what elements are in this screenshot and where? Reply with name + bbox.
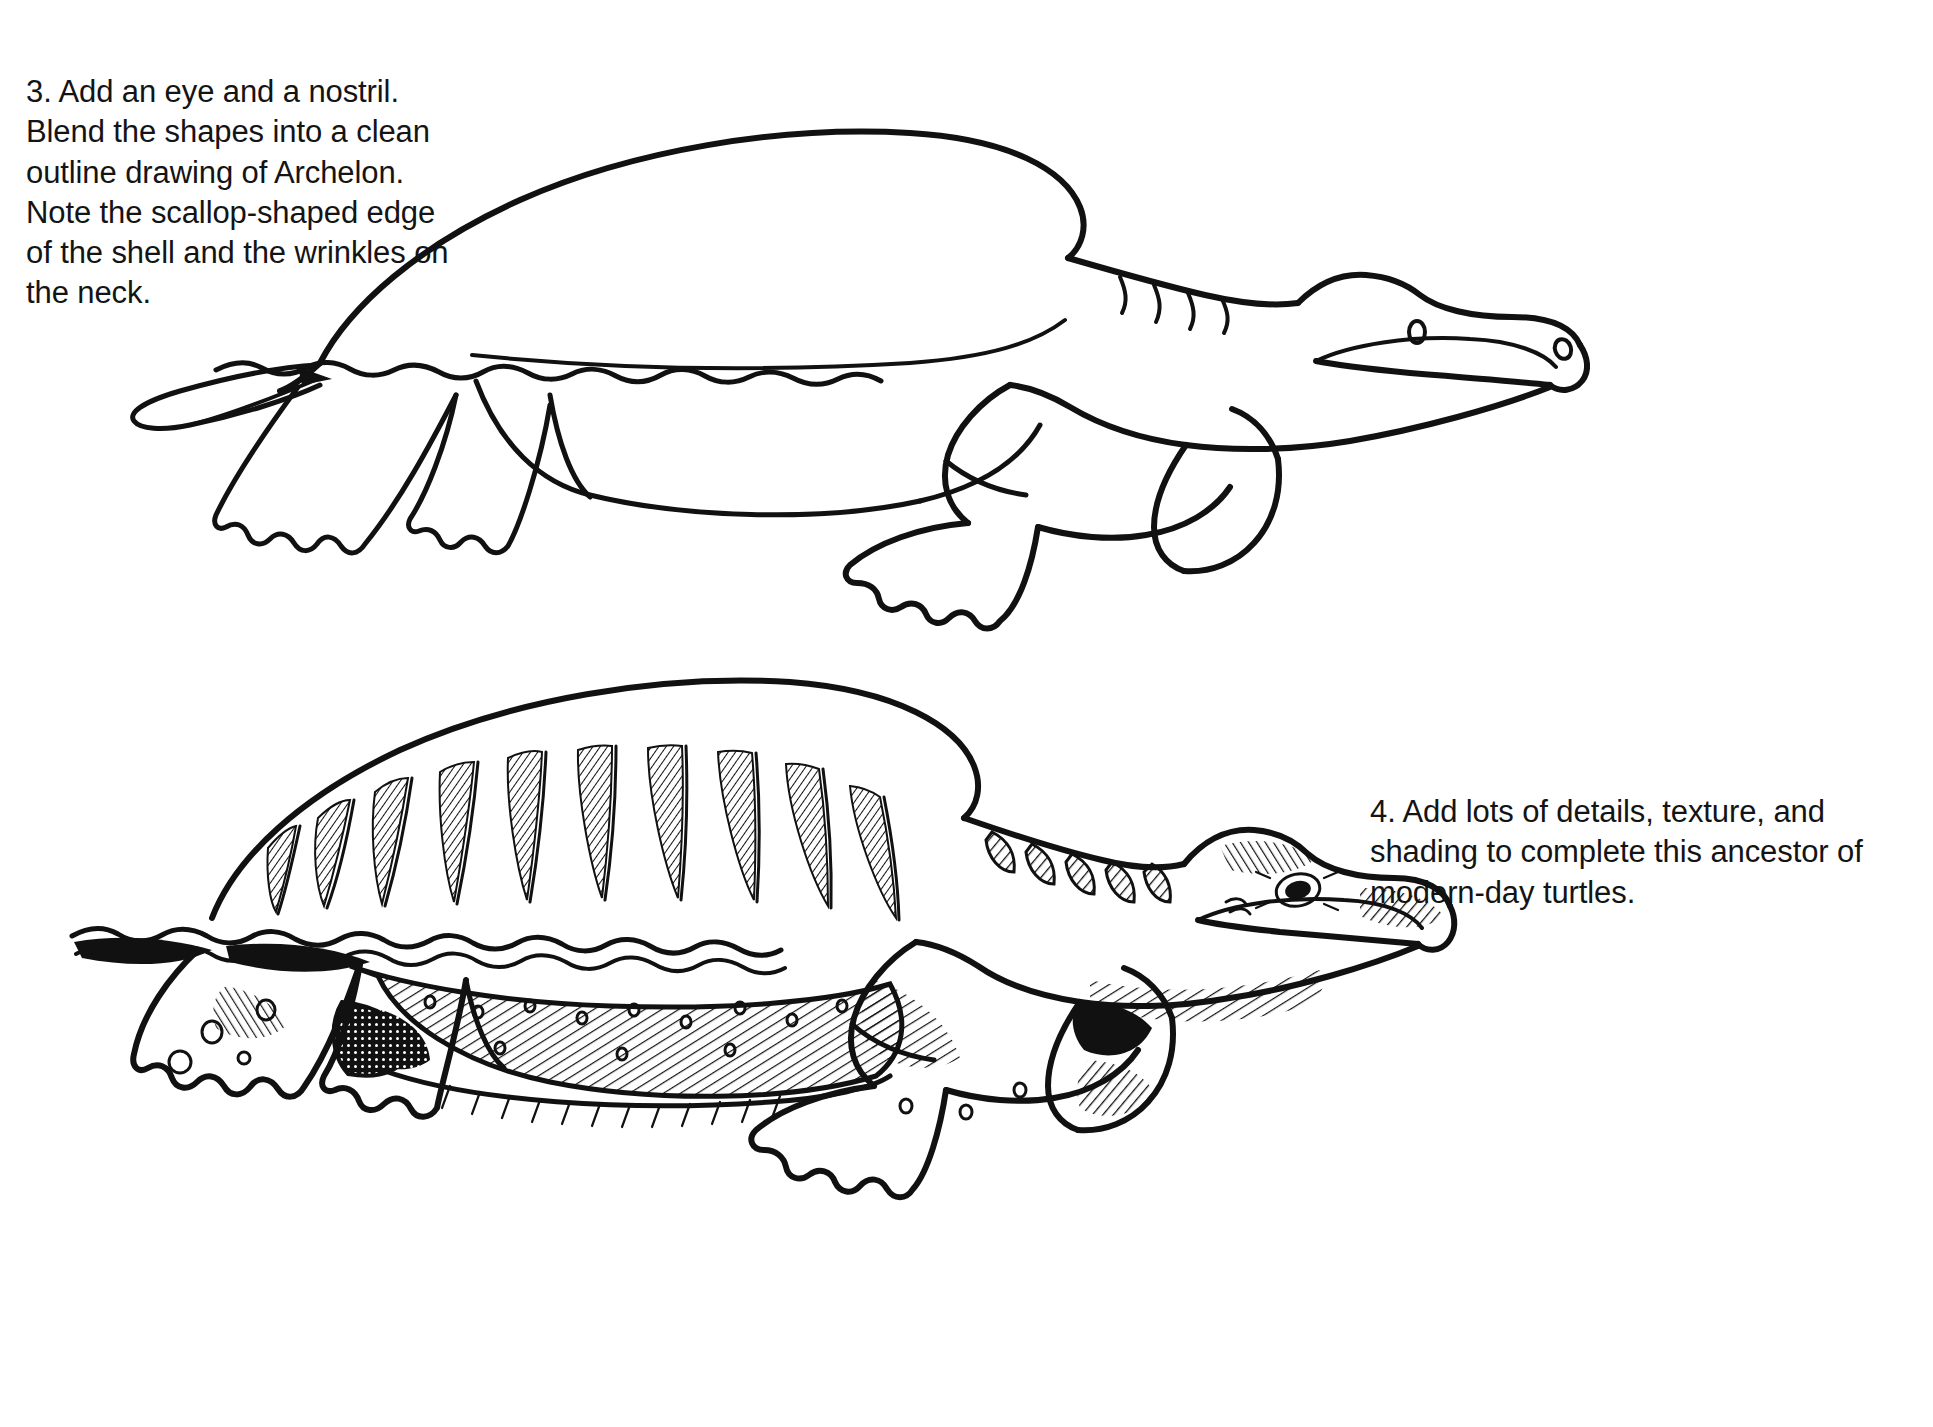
shell-inner-contour xyxy=(472,320,1065,368)
archelon-outline-figure xyxy=(120,95,1430,575)
drawing-page: 3. Add an eye and a nostril. Blend the s… xyxy=(0,0,1933,1427)
head-and-neck xyxy=(1010,258,1587,449)
archelon-shaded-figure xyxy=(30,650,1370,1150)
nostril-icon xyxy=(1552,337,1573,361)
step-4-instruction-text: 4. Add lots of details, texture, and sha… xyxy=(1370,792,1910,913)
tail xyxy=(133,365,332,428)
front-flipper-far xyxy=(1154,409,1279,571)
body-skin xyxy=(350,966,902,1096)
shell-outline xyxy=(280,132,1084,391)
rear-flipper-near xyxy=(409,395,550,553)
eye-icon xyxy=(1256,870,1338,910)
